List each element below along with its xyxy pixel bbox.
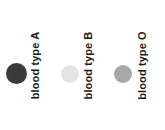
legend-entry-blood-type-o[interactable]: blood type O: [106, 0, 159, 130]
blood-type-legend: blood type A blood type B blood type O: [0, 0, 165, 130]
legend-label-wrap: blood type B: [79, 0, 99, 130]
legend-entry-label: blood type A: [31, 31, 42, 98]
legend-label-wrap: blood type O: [132, 0, 152, 130]
legend-label-wrap: blood type A: [26, 0, 46, 130]
legend-entry-label: blood type O: [137, 31, 148, 99]
circle-swatch-icon: [114, 65, 132, 83]
circle-swatch-icon: [6, 63, 27, 84]
circle-swatch-icon: [61, 65, 79, 83]
legend-entry-label: blood type B: [84, 31, 95, 99]
legend-entry-blood-type-b[interactable]: blood type B: [53, 0, 106, 130]
legend-entry-blood-type-a[interactable]: blood type A: [0, 0, 53, 130]
